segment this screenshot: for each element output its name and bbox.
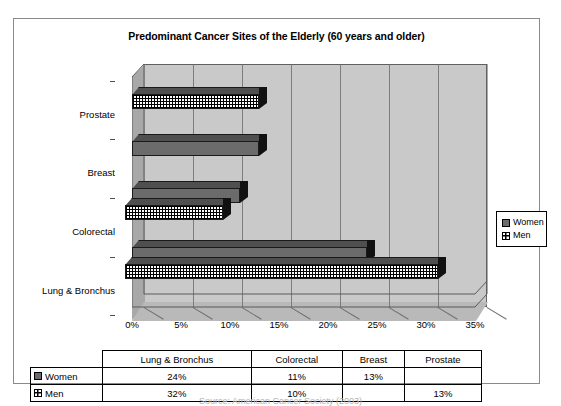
bar-side-face [240,181,248,203]
legend-label-women: Women [513,216,544,229]
table-header-row: Lung & Bronchus Colorectal Breast Prosta… [31,351,482,368]
table-row-header-women: Women [31,368,103,385]
chart-legend: Women Men [496,211,547,247]
x-axis-tick-label: 25% [361,319,393,330]
bar-side-face [223,198,231,220]
table-column-header-lung-bronchus: Lung & Bronchus [103,351,252,368]
table-corner-cell [31,351,103,368]
table-column-header-prostate: Prostate [404,351,481,368]
y-axis-tick [110,81,115,82]
table-column-header-breast: Breast [342,351,404,368]
bar-lung-bronchus-men [125,257,445,280]
x-axis: 0% 5% 10% 15% 20% 25% 30% 35% [119,319,499,335]
bar-front-face [125,205,223,220]
y-axis-label-breast: Breast [88,167,115,178]
bar-side-face [259,87,267,109]
table-row: Women 24% 11% 13% [31,368,482,385]
legend-swatch-women-icon [502,219,510,227]
table-cell-women-breast: 13% [342,368,404,385]
legend-item-women: Women [502,216,541,229]
legend-item-men: Men [502,229,541,242]
source-caption: Source: American Cancer Society (2003) [0,396,561,406]
gridline-floor [486,307,506,320]
y-axis-label-lung-bronchus: Lung & Bronchus [42,285,115,296]
x-axis-tick-label: 0% [116,319,148,330]
bar-side-face [438,257,446,279]
bar-front-face [125,264,438,279]
y-axis-tick [110,257,115,258]
chart-title: Predominant Cancer Sites of the Elderly … [14,30,539,42]
y-axis-tick [110,315,115,316]
chart-frame: Predominant Cancer Sites of the Elderly … [13,18,540,384]
table-column-header-colorectal: Colorectal [251,351,342,368]
plot-area [119,59,499,321]
x-axis-tick-label: 35% [459,319,491,330]
table-cell-women-colorectal: 11% [251,368,342,385]
table-swatch-women-icon [34,372,42,380]
y-axis-label-prostate: Prostate [80,109,115,120]
y-axis-label-colorectal: Colorectal [72,226,115,237]
x-axis-tick-label: 15% [263,319,295,330]
data-table: Lung & Bronchus Colorectal Breast Prosta… [30,350,482,402]
bar-prostate-men [132,87,266,110]
table-row-label-women: Women [45,371,78,382]
legend-label-men: Men [513,229,531,242]
y-axis: Prostate Breast Colorectal Lung & Bronch… [14,59,115,321]
bar-front-face [132,94,259,109]
bar-colorectal-men [125,198,230,221]
y-axis-tick [110,198,115,199]
bar-breast-women [132,134,266,157]
table-cell-women-prostate [404,368,481,385]
table-cell-women-lung-bronchus: 24% [103,368,252,385]
bar-side-face [259,134,267,156]
x-axis-tick-label: 30% [410,319,442,330]
x-axis-tick-label: 20% [312,319,344,330]
y-axis-tick [110,139,115,140]
x-axis-tick-label: 5% [165,319,197,330]
legend-swatch-men-icon [502,232,510,240]
x-axis-tick-label: 10% [214,319,246,330]
bar-front-face [132,141,259,156]
